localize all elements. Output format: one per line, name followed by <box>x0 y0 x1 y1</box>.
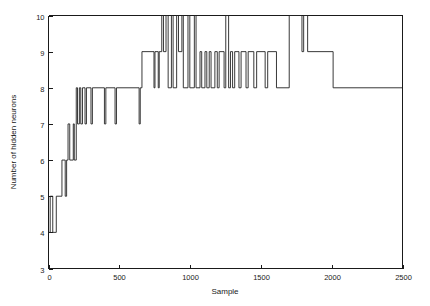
y-tick-label: 3 <box>40 266 44 275</box>
y-tick-label: 4 <box>40 229 44 238</box>
x-tick-label: 1000 <box>182 273 199 282</box>
hidden-neurons-line-chart: 345678910 05001000150020002500 Sample Nu… <box>0 0 430 306</box>
y-tick-label: 9 <box>40 49 44 58</box>
y-tick-label: 10 <box>36 13 44 22</box>
y-axis-title: Number of hidden neurons <box>9 95 18 190</box>
y-tick-label: 6 <box>40 157 44 166</box>
x-tick-label: 2000 <box>324 273 341 282</box>
x-tick-label: 0 <box>47 273 51 282</box>
x-axis-title: Sample <box>211 287 239 296</box>
y-tick-label: 8 <box>40 85 44 94</box>
x-tick-group: 05001000150020002500 <box>47 265 411 282</box>
y-tick-label: 7 <box>40 121 44 130</box>
x-tick-label: 500 <box>113 273 126 282</box>
data-series-line <box>49 16 403 233</box>
chart-figure: 345678910 05001000150020002500 Sample Nu… <box>0 0 430 306</box>
y-tick-group: 345678910 <box>36 13 52 275</box>
x-tick-label: 1500 <box>253 273 270 282</box>
y-tick-label: 5 <box>40 193 44 202</box>
x-tick-label: 2500 <box>395 273 412 282</box>
